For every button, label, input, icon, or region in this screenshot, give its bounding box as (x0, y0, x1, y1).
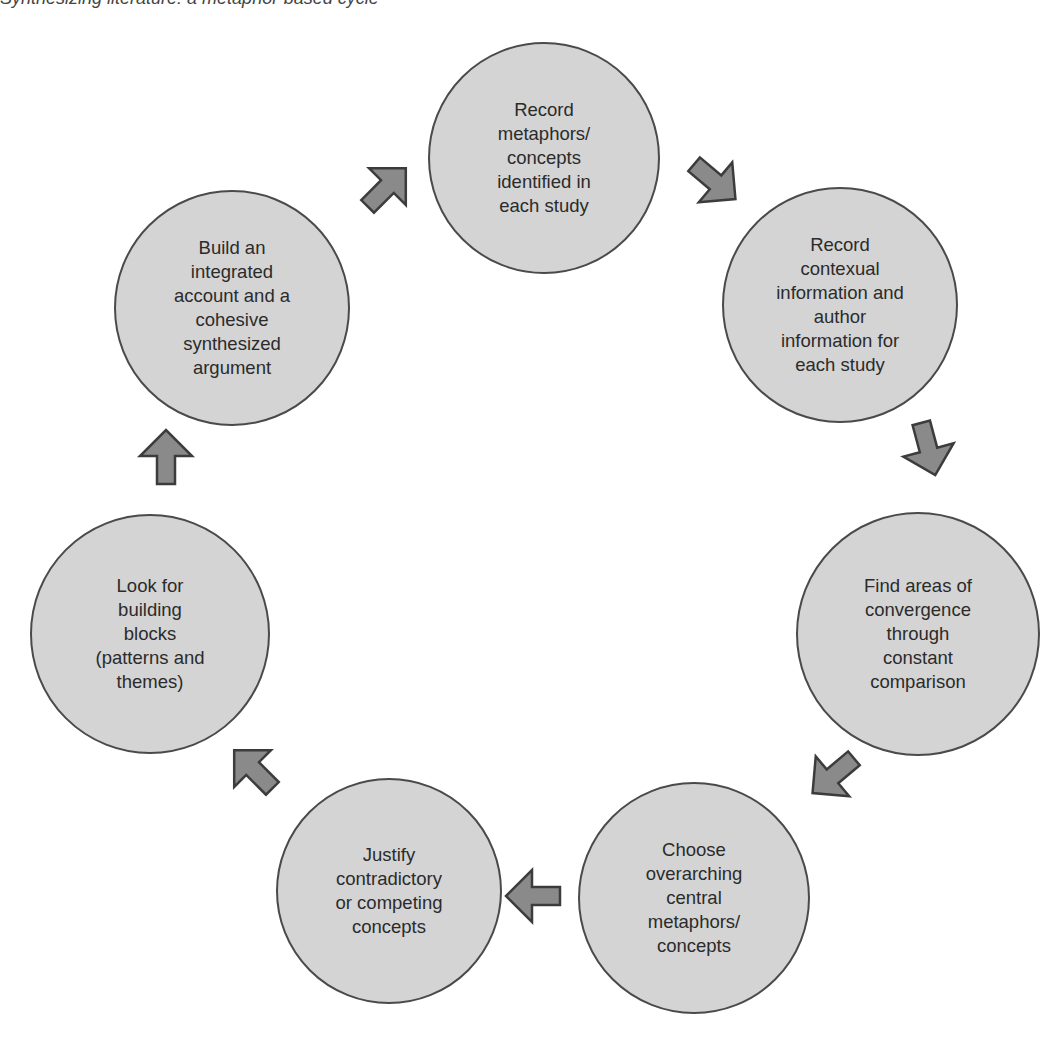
arrow-down-right-icon (677, 144, 752, 219)
arrow-down-icon (896, 416, 960, 482)
arrow-up-icon (140, 430, 192, 484)
arrow-up-left-icon (216, 732, 291, 807)
arrow-up-right-icon (349, 150, 424, 225)
arrow-left-icon (506, 870, 560, 922)
cycle-arrows (0, 0, 1061, 1039)
arrow-down-left-icon (796, 738, 871, 813)
